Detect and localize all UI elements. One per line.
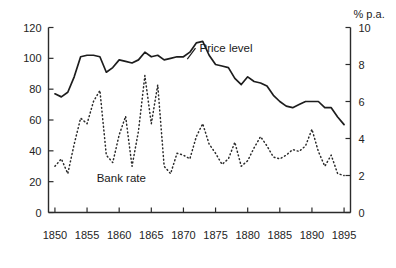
x-tick-label: 1870 — [171, 229, 195, 241]
left-axis-tick-labels: 020406080100120 — [23, 22, 41, 219]
x-tick-label: 1865 — [139, 229, 163, 241]
left-tick-label: 40 — [29, 145, 41, 157]
bottom-axis-ticks — [55, 208, 344, 213]
x-tick-label: 1860 — [107, 229, 131, 241]
left-tick-label: 80 — [29, 83, 41, 95]
right-tick-label: 4 — [359, 133, 365, 145]
x-tick-label: 1855 — [75, 229, 99, 241]
bank-rate-series — [55, 76, 344, 176]
x-axis-tick-labels: 1850185518601865187018751880188518901895 — [43, 229, 357, 241]
left-tick-label: 0 — [35, 207, 41, 219]
x-tick-label: 1850 — [43, 229, 67, 241]
x-tick-label: 1880 — [235, 229, 259, 241]
right-axis-unit-label: % p.a. — [354, 8, 385, 20]
chart-figure: 020406080100120 0246810 1850185518601865… — [0, 0, 396, 268]
price-level-label: Price level — [200, 42, 253, 54]
chart-canvas: 020406080100120 0246810 1850185518601865… — [0, 0, 396, 268]
left-tick-label: 100 — [23, 52, 41, 64]
x-tick-label: 1875 — [203, 229, 227, 241]
right-tick-label: 0 — [359, 207, 365, 219]
left-tick-label: 120 — [23, 22, 41, 34]
left-tick-label: 20 — [29, 176, 41, 188]
right-tick-label: 8 — [359, 59, 365, 71]
right-axis-tick-labels: 0246810 — [359, 22, 371, 219]
right-tick-label: 2 — [359, 170, 365, 182]
x-tick-label: 1895 — [332, 229, 356, 241]
left-axis-ticks — [49, 28, 54, 213]
bank-rate-label: Bank rate — [97, 172, 146, 184]
right-axis-ticks — [346, 28, 351, 213]
right-tick-label: 10 — [359, 22, 371, 34]
x-tick-label: 1890 — [300, 229, 324, 241]
x-tick-label: 1885 — [268, 229, 292, 241]
right-tick-label: 6 — [359, 96, 365, 108]
left-tick-label: 60 — [29, 114, 41, 126]
